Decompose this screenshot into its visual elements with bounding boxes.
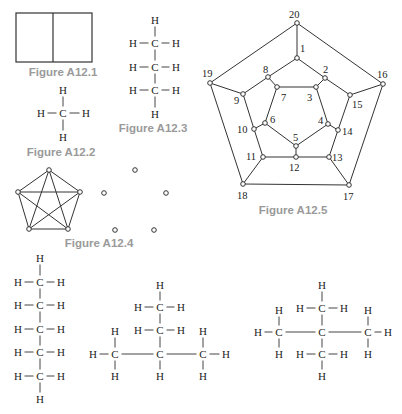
- hydrogen-atom: H: [275, 348, 283, 360]
- vertex-label: 18: [237, 190, 248, 201]
- carbon-atom: C: [36, 346, 43, 358]
- graph-vertex: [347, 183, 352, 188]
- figure-a12-4: Figure A12.4: [16, 168, 169, 249]
- hydrogen-atom: H: [111, 325, 119, 337]
- isolated-vertex: [102, 191, 107, 196]
- graph-vertex: [326, 122, 331, 127]
- hydrogen-atom: H: [296, 348, 304, 360]
- vertex-label: 19: [202, 68, 213, 79]
- hydrogen-atom: H: [199, 370, 207, 382]
- vertex-label: 5: [293, 132, 298, 143]
- graph-vertex: [295, 21, 300, 26]
- figure-caption: Figure A12.1: [29, 66, 98, 78]
- graph-edge: [325, 78, 350, 95]
- graph-edge: [210, 83, 243, 94]
- hydrogen-atom: H: [14, 299, 22, 311]
- graph-vertex: [27, 227, 32, 232]
- carbon-atom: C: [156, 348, 163, 360]
- carbon-atom: C: [111, 348, 118, 360]
- hydrogen-atom: H: [14, 323, 22, 335]
- hydrogen-atom: H: [82, 107, 90, 119]
- figure-a12-2: HHCHHFigure A12.2: [27, 84, 96, 158]
- graph-vertex: [336, 128, 341, 133]
- graph-edge: [49, 170, 80, 192]
- graph-vertex: [294, 144, 299, 149]
- hydrogen-atom: H: [36, 393, 44, 405]
- graph-vertex: [294, 155, 299, 160]
- vertex-label: 13: [332, 152, 343, 163]
- carbon-atom: C: [36, 370, 43, 382]
- hydrogen-atom: H: [14, 346, 22, 358]
- carbon-atom: C: [151, 37, 158, 49]
- hydrogen-atom: H: [37, 107, 45, 119]
- isolated-vertex: [133, 168, 138, 173]
- carbon-atom: C: [275, 326, 282, 338]
- hydrogen-atom: H: [296, 302, 304, 314]
- hydrogen-atom: H: [59, 84, 67, 96]
- graph-edge: [29, 170, 49, 229]
- carbon-atom: C: [36, 299, 43, 311]
- hydrogen-atom: H: [275, 304, 283, 316]
- carbon-atom: C: [156, 324, 163, 336]
- hydrogen-atom: H: [129, 84, 137, 96]
- figure-a12-1: Figure A12.1: [16, 13, 98, 78]
- graph-edge: [29, 192, 80, 229]
- vertex-label: 3: [307, 92, 312, 103]
- carbon-atom: C: [36, 323, 43, 335]
- vertex-label: 9: [234, 95, 239, 106]
- graph-vertex: [327, 155, 332, 160]
- graph-vertex: [263, 121, 268, 126]
- carbon-atom: C: [59, 107, 66, 119]
- hydrogen-atom: H: [151, 108, 159, 120]
- hydrogen-atom: H: [172, 37, 180, 49]
- hydrogen-atom: H: [199, 325, 207, 337]
- hydrogen-atom: H: [57, 323, 65, 335]
- vertex-label: 20: [289, 9, 300, 20]
- figure-caption: Figure A12.5: [259, 204, 328, 216]
- graph-vertex: [241, 182, 246, 187]
- isopentane-structure: HHCHHCHHHHCCCHHHH: [89, 279, 230, 382]
- hydrogen-atom: H: [14, 276, 22, 288]
- carbon-atom: C: [318, 348, 325, 360]
- carbon-atom: C: [36, 276, 43, 288]
- hydrogen-atom: H: [340, 302, 348, 314]
- hydrogen-atom: H: [129, 37, 137, 49]
- graph-edge: [210, 23, 297, 83]
- figure-caption: Figure A12.2: [27, 146, 96, 158]
- hydrogen-atom: H: [111, 370, 119, 382]
- hydrogen-atom: H: [318, 370, 326, 382]
- hydrogen-atom: H: [318, 279, 326, 291]
- hydrogen-atom: H: [172, 61, 180, 73]
- hydrogen-atom: H: [156, 370, 164, 382]
- vertex-label: 17: [343, 191, 354, 202]
- figure-a12-3: HHCHHCHHCHHFigure A12.3: [119, 14, 188, 134]
- graph-vertex: [241, 92, 246, 97]
- figure-caption: Figure A12.4: [65, 237, 134, 249]
- hydrogen-atom: H: [364, 348, 372, 360]
- vertex-label: 15: [352, 99, 363, 110]
- graph-edge: [296, 124, 328, 146]
- figure-a12-5: 1234567891011121314151617181920Figure A1…: [202, 9, 388, 217]
- carbon-atom: C: [318, 326, 325, 338]
- hydrogen-atom: H: [59, 131, 67, 143]
- vertex-label: 14: [342, 126, 353, 137]
- vertex-label: 16: [377, 69, 388, 80]
- graph-edge: [49, 170, 68, 229]
- graph-vertex: [295, 56, 300, 61]
- hydrogen-atom: H: [134, 301, 142, 313]
- graph-edge: [297, 23, 383, 84]
- hydrogen-atom: H: [57, 346, 65, 358]
- vertex-label: 8: [263, 64, 268, 75]
- vertex-label: 4: [318, 115, 324, 126]
- hydrogen-atom: H: [254, 326, 262, 338]
- vertex-label: 6: [270, 114, 275, 125]
- hydrogen-atom: H: [384, 326, 392, 338]
- vertex-label: 11: [246, 151, 256, 162]
- graph-edge: [268, 58, 297, 77]
- graph-vertex: [208, 81, 213, 86]
- carbon-atom: C: [318, 302, 325, 314]
- isolated-vertex: [152, 228, 157, 233]
- hydrogen-atom: H: [151, 14, 159, 26]
- hydrogen-atom: H: [222, 348, 230, 360]
- vertex-label: 12: [289, 162, 300, 173]
